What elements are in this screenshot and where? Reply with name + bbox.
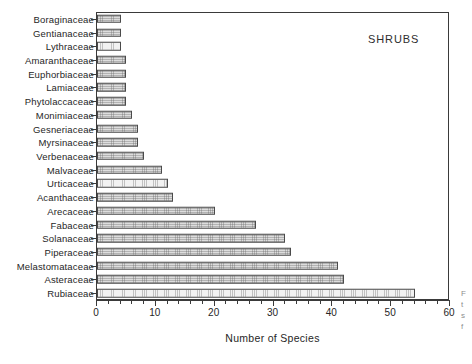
x-axis-minor-tick	[261, 300, 262, 304]
x-axis-tick-label: 10	[149, 307, 160, 318]
x-axis-minor-tick	[225, 300, 226, 304]
y-axis-tick	[91, 279, 96, 280]
category-label: Lythraceae	[46, 41, 94, 52]
category-label: Gentianaceae	[33, 27, 94, 38]
category-label: Solanaceae	[42, 233, 94, 244]
bar	[97, 234, 285, 243]
bar-row: Amaranthaceae	[0, 53, 472, 67]
bar	[97, 42, 121, 51]
category-label: Phytolaccaceae	[25, 96, 94, 107]
bar	[97, 152, 144, 161]
x-axis-minor-tick	[414, 300, 415, 304]
y-axis-tick	[91, 238, 96, 239]
category-label: Rubiaceae	[47, 288, 94, 299]
bar-row: Solanaceae	[0, 231, 472, 245]
x-axis-minor-tick	[284, 300, 285, 304]
bar-row: Gesneriaceae	[0, 122, 472, 136]
x-axis-minor-tick	[131, 300, 132, 304]
margin-text-line: f	[461, 321, 472, 332]
category-label: Myrsinaceae	[38, 137, 94, 148]
category-label: Boraginaceae	[34, 13, 94, 24]
bar-row: Piperaceae	[0, 245, 472, 259]
bar	[97, 83, 126, 92]
y-axis-tick	[91, 87, 96, 88]
bar	[97, 193, 173, 202]
bar-row: Lythraceae	[0, 39, 472, 53]
x-axis-major-tick	[331, 300, 332, 306]
bar	[97, 124, 138, 133]
bar-row: Fabaceae	[0, 218, 472, 232]
x-axis-tick-label: 30	[267, 307, 278, 318]
x-axis-minor-tick	[296, 300, 297, 304]
x-axis-major-tick	[214, 300, 215, 306]
category-label: Lamiaceae	[46, 82, 94, 93]
bar-row: Boraginaceae	[0, 12, 472, 26]
x-axis-minor-tick	[237, 300, 238, 304]
bar-row: Phytolaccaceae	[0, 94, 472, 108]
x-axis-minor-tick	[402, 300, 403, 304]
x-axis-minor-tick	[437, 300, 438, 304]
x-axis-tick-label: 60	[443, 307, 454, 318]
bar-row: Acanthaceae	[0, 190, 472, 204]
cropped-margin-text: Ftsf	[461, 288, 472, 332]
bar-rows-container: BoraginaceaeGentianaceaeLythraceaeAmaran…	[0, 12, 472, 300]
bar-row: Euphorbiaceae	[0, 67, 472, 81]
y-axis-tick	[91, 101, 96, 102]
margin-text-line: t	[461, 299, 472, 310]
x-axis-minor-tick	[367, 300, 368, 304]
category-label: Verbenaceae	[36, 150, 94, 161]
y-axis-tick	[91, 293, 96, 294]
bar-row: Rubiaceae	[0, 286, 472, 300]
category-label: Fabaceae	[51, 219, 94, 230]
y-axis-tick	[91, 115, 96, 116]
x-axis-tick-label: 20	[208, 307, 219, 318]
bar	[97, 275, 344, 284]
x-axis-major-tick	[273, 300, 274, 306]
x-axis-tick-label: 0	[93, 307, 99, 318]
x-axis-minor-tick	[355, 300, 356, 304]
x-axis-minor-tick	[108, 300, 109, 304]
x-axis-minor-tick	[202, 300, 203, 304]
bar	[97, 69, 126, 78]
bar	[97, 15, 121, 24]
y-axis-tick	[91, 142, 96, 143]
bar-row: Arecaceae	[0, 204, 472, 218]
category-label: Urticaceae	[47, 178, 94, 189]
bar-row: Gentianaceae	[0, 26, 472, 40]
category-label: Gesneriaceae	[33, 123, 94, 134]
category-label: Acanthaceae	[37, 192, 94, 203]
bar-row: Melastomataceae	[0, 259, 472, 273]
bar-row: Myrsinaceae	[0, 135, 472, 149]
bar	[97, 165, 162, 174]
bar	[97, 179, 168, 188]
category-label: Malvaceae	[47, 164, 94, 175]
x-axis-minor-tick	[249, 300, 250, 304]
y-axis-tick	[91, 33, 96, 34]
x-axis-minor-tick	[378, 300, 379, 304]
bar-row: Monimiaceae	[0, 108, 472, 122]
x-axis-tick-label: 50	[385, 307, 396, 318]
x-axis-title: Number of Species	[96, 332, 449, 344]
margin-text-line: F	[461, 288, 472, 299]
x-axis-major-tick	[390, 300, 391, 306]
y-axis-tick	[91, 225, 96, 226]
y-axis-tick	[91, 156, 96, 157]
margin-text-line: s	[461, 310, 472, 321]
y-axis-tick	[91, 19, 96, 20]
category-label: Monimiaceae	[36, 109, 94, 120]
y-axis-tick	[91, 211, 96, 212]
y-axis-tick	[91, 197, 96, 198]
bar	[97, 28, 121, 37]
bar	[97, 207, 215, 216]
bar	[97, 138, 138, 147]
x-axis-minor-tick	[343, 300, 344, 304]
x-axis-minor-tick	[143, 300, 144, 304]
bar	[97, 97, 126, 106]
category-label: Arecaceae	[47, 205, 94, 216]
x-axis-minor-tick	[167, 300, 168, 304]
x-axis-minor-tick	[320, 300, 321, 304]
x-axis-major-tick	[449, 300, 450, 306]
bar-row: Lamiaceae	[0, 81, 472, 95]
bar-row: Malvaceae	[0, 163, 472, 177]
x-axis-minor-tick	[190, 300, 191, 304]
